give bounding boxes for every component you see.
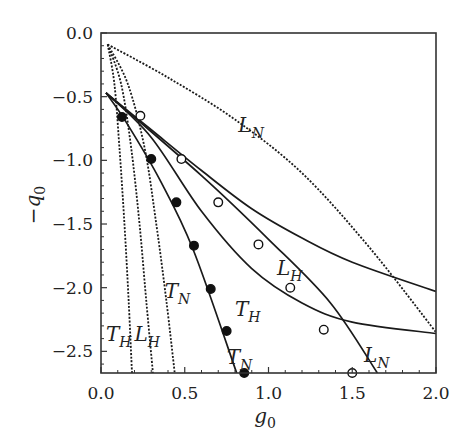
plot-area (106, 44, 436, 377)
filled-circle-marker (172, 198, 181, 207)
open-circle-marker (319, 325, 328, 334)
curve-label: LN (237, 113, 264, 141)
curve-labels: LNTHLHTNLHTHLNTN (106, 113, 390, 373)
curve-label: LH (134, 322, 161, 350)
curve-label: TH (235, 297, 261, 325)
filled-circle-marker (190, 241, 199, 250)
y-tick-label: −0.5 (52, 87, 93, 107)
filled-circle-marker (206, 285, 215, 294)
chart: 0.00.51.01.52.0 0.0−0.5−1.0−1.5−2.0−2.5 … (0, 0, 473, 447)
y-tick-label: −1.0 (52, 150, 93, 170)
open-circle-marker (214, 198, 223, 207)
open-circle-marker (254, 240, 263, 249)
x-tick-label: 2.0 (422, 383, 449, 403)
curve-label: TN (165, 279, 191, 307)
curve-l-h-solid (106, 93, 436, 292)
curve-label: TN (227, 345, 253, 373)
curve-t-n-solid (106, 93, 237, 373)
filled-circle-marker (222, 327, 231, 336)
curve-label: TH (106, 322, 132, 350)
y-axis-label: −q0 (21, 186, 48, 224)
y-axis-ticks: 0.0−0.5−1.0−1.5−2.0−2.5 (52, 23, 107, 364)
filled-circle-marker (118, 113, 127, 122)
y-tick-label: −2.5 (52, 341, 93, 361)
filled-circle-marker (147, 155, 156, 164)
y-tick-label: −2.0 (52, 278, 93, 298)
y-tick-label: 0.0 (66, 23, 93, 43)
open-circle-marker (136, 111, 145, 120)
x-tick-label: 0.0 (87, 383, 114, 403)
x-tick-label: 1.0 (255, 383, 282, 403)
x-tick-label: 1.5 (339, 383, 366, 403)
open-circle-marker (286, 283, 295, 292)
curve-label: LH (276, 256, 303, 284)
plot-frame (101, 33, 436, 373)
x-tick-label: 0.5 (171, 383, 198, 403)
y-tick-label: −1.5 (52, 214, 93, 234)
curve-l-n-dotted (108, 44, 436, 332)
open-circle-marker (177, 155, 186, 164)
x-axis-label: g0 (254, 404, 276, 431)
curve-label: LN (363, 343, 390, 371)
